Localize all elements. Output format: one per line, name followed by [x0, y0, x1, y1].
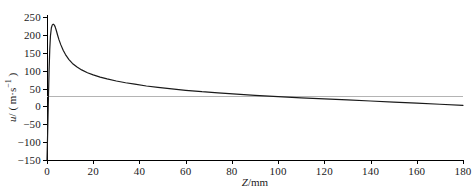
y-tick-label: 150 — [24, 47, 41, 58]
y-tick-mark — [43, 160, 47, 161]
x-tick-mark — [139, 160, 140, 164]
y-tick-mark — [43, 71, 47, 72]
chart-figure: 020406080100120140160180 250200150100500… — [0, 0, 475, 194]
y-tick-label: −100 — [17, 137, 41, 148]
x-tick-label: 140 — [362, 166, 379, 177]
y-tick-mark — [43, 124, 47, 125]
x-tick-mark — [371, 160, 372, 164]
x-tick-label: 40 — [134, 166, 145, 177]
x-tick-mark — [47, 160, 48, 164]
x-tick-label: 120 — [316, 166, 333, 177]
data-curve — [47, 17, 463, 160]
y-tick-label: 50 — [30, 83, 41, 94]
x-axis-title: Z/mm — [242, 177, 268, 188]
plot-area: 250200150100500−50−100−150 — [47, 17, 463, 160]
x-tick-mark — [324, 160, 325, 164]
x-tick-label: 60 — [180, 166, 191, 177]
y-tick-label: 100 — [24, 65, 41, 76]
y-tick-mark — [43, 142, 47, 143]
x-tick-mark — [93, 160, 94, 164]
y-tick-mark — [43, 89, 47, 90]
x-tick-mark — [186, 160, 187, 164]
x-tick-label: 180 — [454, 166, 471, 177]
y-axis-title-text: u/ ( m·s−1 ) — [4, 72, 19, 121]
x-tick-label: 0 — [44, 166, 50, 177]
y-tick-mark — [43, 53, 47, 54]
x-axis-line: 020406080100120140160180 — [46, 160, 464, 161]
x-tick-mark — [463, 160, 464, 164]
x-tick-label: 80 — [226, 166, 237, 177]
y-tick-mark — [43, 35, 47, 36]
y-tick-mark — [43, 106, 47, 107]
y-tick-mark — [43, 17, 47, 18]
y-tick-label: 200 — [24, 29, 41, 40]
y-tick-label: 0 — [35, 101, 41, 112]
y-tick-label: −50 — [23, 119, 41, 130]
y-tick-label: 250 — [24, 12, 41, 23]
x-tick-mark — [278, 160, 279, 164]
x-tick-mark — [417, 160, 418, 164]
y-tick-label: −150 — [17, 155, 41, 166]
x-tick-label: 20 — [88, 166, 99, 177]
y-axis-title: u/ ( m·s−1 ) — [2, 42, 20, 152]
x-tick-label: 160 — [408, 166, 425, 177]
x-tick-mark — [232, 160, 233, 164]
x-tick-label: 100 — [270, 166, 287, 177]
